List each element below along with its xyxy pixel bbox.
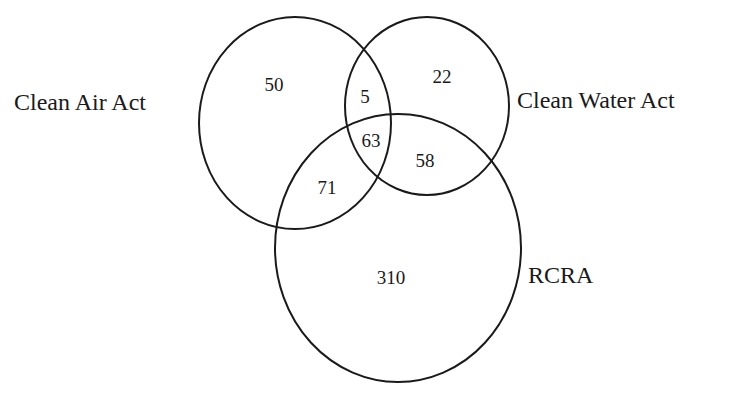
venn-diagram: Clean Air Act Clean Water Act RCRA 50 22… (0, 0, 739, 397)
clean-water-act-label: Clean Water Act (517, 87, 675, 113)
region-rcra-only: 310 (377, 267, 406, 288)
region-water-only: 22 (433, 66, 452, 87)
region-air-rcra: 71 (318, 177, 337, 198)
clean-air-act-label: Clean Air Act (14, 89, 146, 115)
region-water-rcra: 58 (416, 150, 435, 171)
rcra-label: RCRA (528, 262, 594, 288)
region-all-three: 63 (362, 130, 381, 151)
region-air-only: 50 (265, 74, 284, 95)
rcra-circle (275, 114, 521, 382)
clean-air-act-circle (199, 17, 391, 229)
region-air-water: 5 (360, 86, 370, 107)
